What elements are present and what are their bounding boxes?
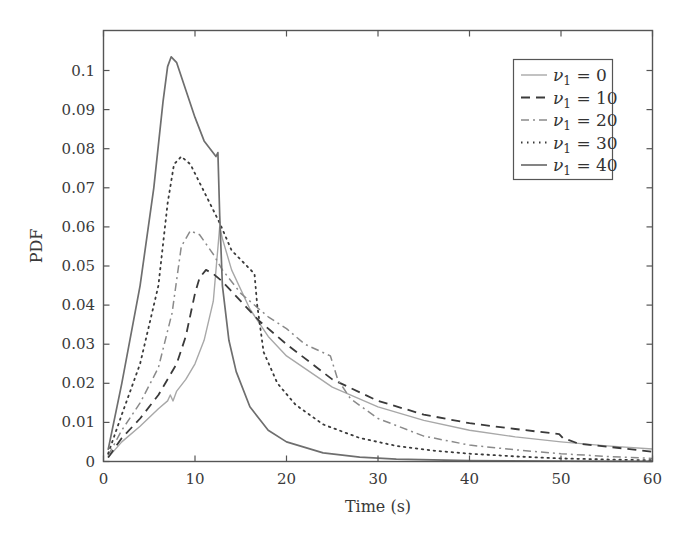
x-tick-label: 40	[460, 470, 479, 488]
legend-label: ν1 = 0	[553, 65, 607, 88]
y-axis-label: PDF	[27, 229, 46, 264]
y-tick-label: 0.08	[62, 140, 95, 158]
series-line-0	[108, 227, 652, 458]
legend: ν1 = 0ν1 = 10ν1 = 20ν1 = 30ν1 = 40	[514, 60, 618, 180]
y-tick-label: 0.07	[62, 179, 95, 197]
y-tick-label: 0.03	[62, 335, 95, 353]
legend-label: ν1 = 10	[553, 88, 618, 111]
y-tick-label: 0.06	[62, 218, 95, 236]
pdf-line-chart: 0102030405060 00.010.020.030.040.050.060…	[0, 0, 686, 544]
y-tick-label: 0.05	[62, 257, 95, 275]
y-tick-label: 0.04	[62, 296, 95, 314]
y-tick-label: 0.01	[62, 413, 95, 431]
x-tick-label: 10	[185, 470, 204, 488]
y-tick-label: 0.02	[62, 374, 95, 392]
x-tick-label: 50	[551, 470, 570, 488]
legend-label: ν1 = 20	[553, 110, 618, 133]
y-tick-label: 0.1	[71, 62, 95, 80]
x-tick-label: 30	[368, 470, 387, 488]
legend-label: ν1 = 40	[553, 155, 618, 178]
x-axis-label: Time (s)	[345, 497, 411, 516]
series-line-1	[108, 270, 652, 458]
y-tick-label: 0.09	[62, 101, 95, 119]
series-line-3	[108, 157, 652, 461]
x-tick-label: 60	[643, 470, 662, 488]
x-tick-label: 0	[99, 470, 109, 488]
series-line-2	[108, 231, 652, 459]
x-tick-label: 20	[277, 470, 296, 488]
y-tick-label: 0	[85, 453, 95, 471]
legend-label: ν1 = 30	[553, 133, 618, 156]
